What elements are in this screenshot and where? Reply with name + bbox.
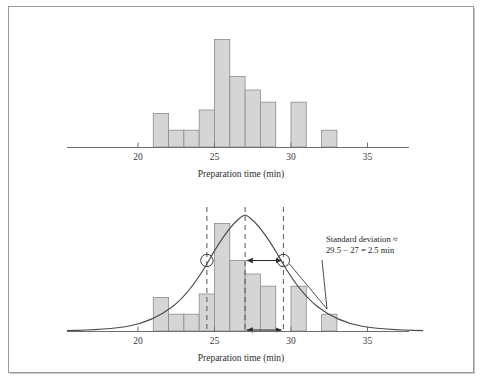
x-axis-tick-labels: 20 25 30 35 (133, 152, 372, 162)
annotation-line-2: 29.5 − 27 = 2.5 min (326, 245, 395, 255)
table-row (215, 40, 230, 148)
table-row (153, 113, 168, 147)
x-tick-label: 30 (286, 152, 296, 162)
table-row (169, 314, 184, 331)
table-row (291, 102, 306, 147)
table-row (260, 102, 275, 147)
table-row (260, 286, 275, 331)
annotation-line-1: Standard deviation ≈ (326, 234, 398, 244)
x-tick-label: 20 (133, 336, 143, 346)
x-axis-title: Preparation time (min) (198, 169, 285, 180)
x-tick-label: 25 (210, 152, 220, 162)
table-row (184, 130, 199, 147)
annotation-standard-deviation: Standard deviation ≈ 29.5 − 27 = 2.5 min (326, 234, 398, 255)
x-tick-label: 35 (363, 152, 373, 162)
x-axis-title: Preparation time (min) (198, 353, 285, 364)
table-row (245, 90, 260, 147)
top-histogram-bars (153, 40, 337, 148)
x-tick-label: 35 (363, 336, 373, 346)
table-row (230, 76, 245, 147)
x-axis-tick-labels: 20 25 30 35 (133, 336, 372, 346)
table-row (245, 274, 260, 331)
table-row (230, 260, 245, 331)
table-row (184, 314, 199, 331)
x-tick-label: 20 (133, 152, 143, 162)
table-row (169, 130, 184, 147)
bottom-histogram-bars (153, 224, 337, 332)
table-row (322, 130, 337, 147)
x-tick-label: 30 (286, 336, 296, 346)
bottom-histogram-chart: Standard deviation ≈ 29.5 − 27 = 2.5 min… (9, 185, 473, 371)
table-row (199, 110, 214, 147)
figure-frame: 20 25 30 35 Preparation time (min) (8, 6, 474, 373)
top-histogram-chart: 20 25 30 35 Preparation time (min) (9, 7, 473, 185)
x-tick-label: 25 (210, 336, 220, 346)
